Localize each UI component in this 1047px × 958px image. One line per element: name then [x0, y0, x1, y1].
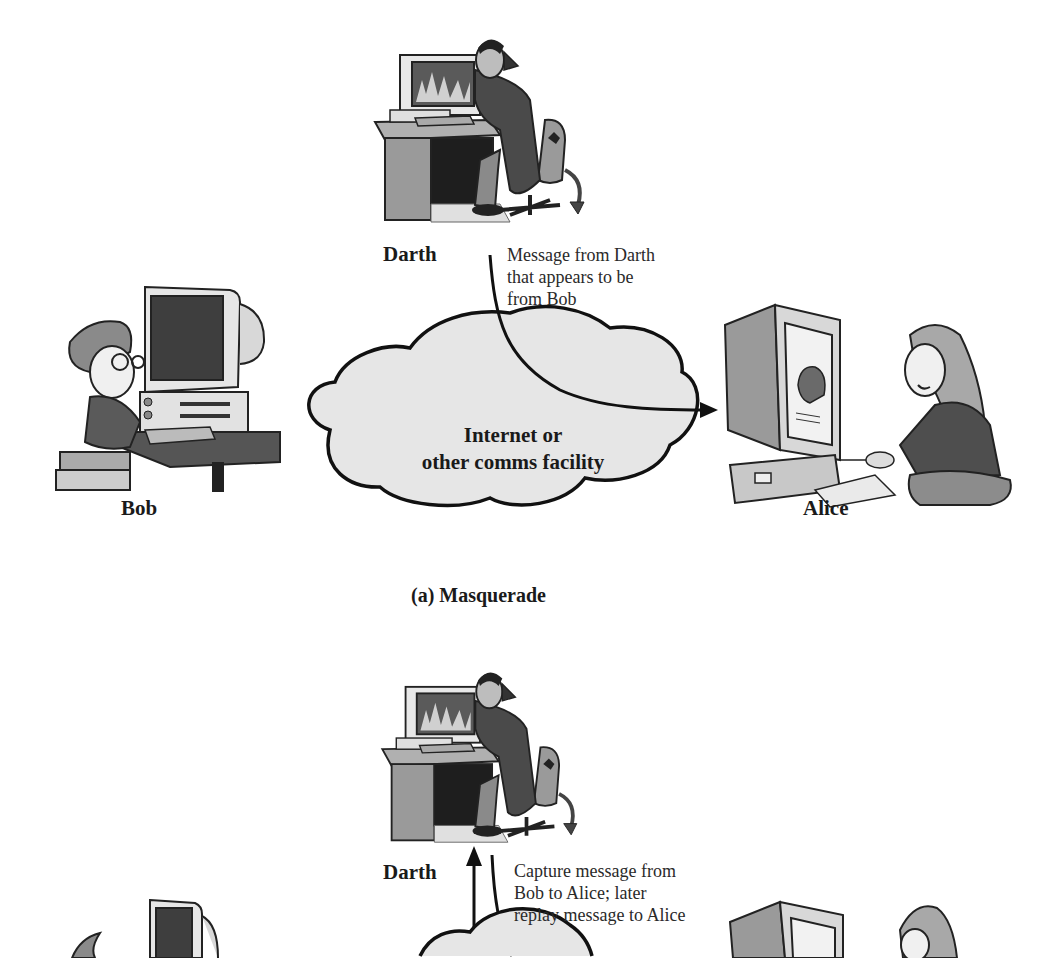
- arrowhead-icon: [700, 402, 718, 418]
- darth-label-b: Darth: [383, 860, 437, 885]
- panel-a-title: (a) Masquerade: [411, 584, 546, 607]
- alice-illustration: [720, 295, 1020, 510]
- bob-illustration-b: [60, 898, 210, 958]
- network-label: Internet or other comms facility: [393, 422, 633, 476]
- arrowhead-up-icon: [466, 846, 482, 866]
- darth-illustration-b: [370, 645, 590, 845]
- alice-illustration-b: [725, 900, 985, 958]
- replay-annotation: Capture message from Bob to Alice; later…: [514, 860, 685, 926]
- alice-label: Alice: [803, 496, 848, 521]
